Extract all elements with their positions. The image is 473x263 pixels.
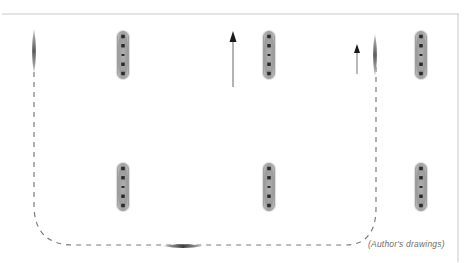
formation-diagram-canvas bbox=[0, 0, 473, 263]
ship-beam-bottom-center-deck-mark bbox=[268, 186, 271, 188]
ship-beam-bottom-left-deck-mark bbox=[121, 204, 125, 207]
ship-beam-top-center-deck-mark bbox=[267, 35, 271, 38]
ship-beam-bottom-left-deck-mark bbox=[121, 195, 125, 198]
ship-beam-top-center bbox=[262, 30, 276, 80]
ship-beam-top-right-deck-mark bbox=[419, 35, 423, 38]
page-border bbox=[2, 14, 459, 262]
figure-credit-caption: (Author's drawings) bbox=[368, 239, 445, 249]
ship-beam-top-left bbox=[116, 30, 130, 80]
figure-root: (Author's drawings) bbox=[0, 0, 473, 263]
ship-beam-top-right-deck-mark bbox=[419, 63, 423, 66]
ship-symbols bbox=[32, 29, 428, 248]
ship-beam-bottom-right bbox=[414, 162, 428, 212]
ship-bow-on-left bbox=[32, 29, 36, 73]
ship-beam-top-left-deck-mark bbox=[121, 72, 125, 75]
heading-arrows bbox=[230, 31, 361, 87]
ship-beam-top-left-deck-mark bbox=[121, 63, 125, 66]
ship-beam-top-right bbox=[414, 30, 428, 80]
ship-beam-bottom-left-deck-mark bbox=[121, 167, 125, 170]
ship-beam-bottom-left-deck-mark bbox=[122, 186, 125, 188]
ship-beam-bottom-left bbox=[116, 162, 130, 212]
heading-arrow-right-head bbox=[354, 44, 360, 53]
ship-beam-top-right-deck-mark bbox=[419, 72, 423, 75]
ship-beam-top-left-deck-mark bbox=[122, 54, 125, 56]
heading-arrow-center-head bbox=[230, 31, 237, 42]
ship-beam-top-center-deck-mark bbox=[267, 72, 271, 75]
ship-bow-on-left-hull bbox=[32, 29, 36, 73]
ship-beam-bottom-right-deck-mark bbox=[419, 204, 423, 207]
ship-beam-bottom-center-deck-mark bbox=[267, 176, 271, 179]
ship-beam-top-left-deck-mark bbox=[121, 35, 125, 38]
ship-beam-bottom-right-deck-mark bbox=[419, 195, 423, 198]
ship-beam-bottom-center-deck-mark bbox=[267, 167, 271, 170]
ship-beam-top-left-deck-mark bbox=[121, 44, 125, 47]
ship-beam-bottom-left-deck-mark bbox=[121, 176, 125, 179]
ship-beam-bottom-center bbox=[262, 162, 276, 212]
track-dashed-line bbox=[34, 62, 376, 245]
ship-beam-top-center-deck-mark bbox=[268, 54, 271, 56]
ship-beam-bottom-right-deck-mark bbox=[419, 176, 423, 179]
ship-beam-bottom-right-deck-mark bbox=[419, 167, 423, 170]
ship-beam-top-center-deck-mark bbox=[267, 44, 271, 47]
ship-beam-top-right-deck-mark bbox=[419, 44, 423, 47]
dashed-track-path bbox=[34, 62, 376, 245]
ship-beam-top-right-deck-mark bbox=[420, 54, 423, 56]
ship-beam-bottom-center-deck-mark bbox=[267, 204, 271, 207]
heading-arrow-center bbox=[230, 31, 237, 87]
ship-beam-bottom-center-deck-mark bbox=[267, 195, 271, 198]
heading-arrow-right bbox=[354, 44, 360, 74]
ship-beam-bottom-right-deck-mark bbox=[420, 186, 423, 188]
ship-beam-top-center-deck-mark bbox=[267, 63, 271, 66]
